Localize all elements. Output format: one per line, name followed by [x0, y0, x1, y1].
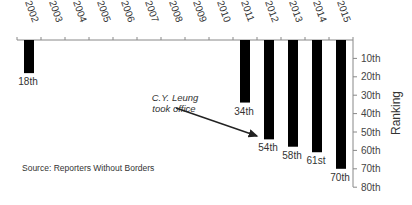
bar-value-label: 34th — [234, 106, 253, 117]
y-tick-label: 80th — [361, 182, 380, 193]
y-tick-label: 30th — [361, 90, 380, 101]
x-tick-label: 2008 — [167, 0, 185, 24]
bar-value-label: 70th — [330, 172, 349, 183]
x-tick-label: 2005 — [95, 0, 113, 24]
bar-2002 — [24, 40, 34, 73]
y-tick-label: 40th — [361, 108, 380, 119]
x-tick-label: 2013 — [287, 0, 305, 24]
y-axis-labels: 10th20th30th40th50th60th70th80th — [361, 53, 380, 193]
x-tick-label: 2011 — [239, 0, 257, 23]
x-tick-label: 2012 — [263, 0, 281, 24]
bar-value-label: 58th — [282, 150, 301, 161]
x-tick-label: 2003 — [47, 0, 65, 24]
x-tick-label: 2002 — [23, 0, 41, 24]
bar-value-label: 18th — [18, 76, 37, 87]
bar-value-label: 61st — [307, 155, 326, 166]
y-tick-label: 60th — [361, 145, 380, 156]
y-tick-label: 50th — [361, 127, 380, 138]
source-note: Source: Reporters Without Borders — [22, 163, 154, 173]
x-tick-label: 2004 — [71, 0, 89, 24]
bar-2012 — [264, 40, 274, 139]
bar-2014 — [312, 40, 322, 152]
x-tick-label: 2010 — [215, 0, 233, 24]
x-tick-label: 2009 — [191, 0, 209, 24]
bar-2015 — [336, 40, 346, 169]
x-tick-label: 2007 — [143, 0, 161, 24]
x-tick-label: 2014 — [311, 0, 329, 24]
y-axis-title: Ranking — [389, 91, 403, 135]
x-tick-label: 2015 — [335, 0, 353, 24]
y-tick-label: 10th — [361, 53, 380, 64]
bar-value-label: 54th — [258, 142, 277, 153]
bar-2011 — [240, 40, 250, 103]
y-tick-label: 70th — [361, 163, 380, 174]
y-axis-ticks — [353, 58, 357, 187]
x-tick-label: 2006 — [119, 0, 137, 24]
annotation-line1: C.Y. Leung — [152, 92, 199, 103]
press-freedom-ranking-chart: 2002200320042005200620072008200920102011… — [0, 0, 412, 205]
y-tick-label: 20th — [361, 71, 380, 82]
x-axis-labels: 2002200320042005200620072008200920102011… — [23, 0, 353, 24]
bar-2013 — [288, 40, 298, 147]
